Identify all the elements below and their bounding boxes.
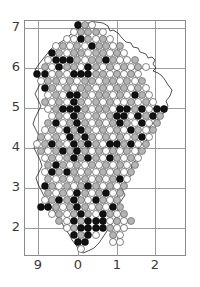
- dot-black: [75, 22, 82, 29]
- dot-gray: [82, 176, 89, 183]
- dot-open: [49, 99, 56, 106]
- dot-black: [82, 239, 89, 246]
- dot-open: [117, 78, 124, 85]
- dot-gray: [78, 218, 85, 225]
- dot-open: [146, 134, 153, 141]
- dot-open: [64, 99, 71, 106]
- dot-black: [74, 148, 81, 155]
- dot-gray: [53, 78, 60, 85]
- dot-open: [60, 78, 67, 85]
- dot-open: [60, 120, 67, 127]
- dot-gray: [78, 197, 85, 204]
- dot-open: [103, 176, 110, 183]
- x-tick-label: 9: [28, 258, 48, 272]
- dot-open: [82, 43, 89, 50]
- dot-open: [143, 127, 150, 134]
- dot-black: [85, 225, 92, 232]
- dot-gray: [38, 148, 45, 155]
- dot-gray: [110, 120, 117, 127]
- dot-black: [117, 176, 124, 183]
- dot-gray: [71, 225, 78, 232]
- dot-gray: [53, 134, 60, 141]
- dot-gray: [96, 57, 103, 64]
- figure-root: 9012 765432: [0, 0, 200, 287]
- dot-open: [103, 120, 110, 127]
- dot-open: [45, 57, 52, 64]
- dot-gray: [103, 106, 110, 113]
- dot-black: [103, 190, 110, 197]
- dot-gray: [110, 78, 117, 85]
- dot-open: [124, 57, 131, 64]
- dot-open: [107, 169, 114, 176]
- dot-gray: [107, 211, 114, 218]
- dot-open: [107, 85, 114, 92]
- dot-gray: [49, 127, 56, 134]
- dot-black: [67, 57, 74, 64]
- dot-black: [71, 232, 78, 239]
- dot-gray: [74, 57, 81, 64]
- dot-open: [135, 99, 142, 106]
- dot-gray: [110, 148, 117, 155]
- dot-black: [71, 99, 78, 106]
- dot-open: [110, 43, 117, 50]
- dot-gray: [74, 134, 81, 141]
- dot-black: [42, 71, 49, 78]
- dot-gray: [82, 92, 89, 99]
- dot-gray: [64, 197, 71, 204]
- dot-open: [45, 106, 52, 113]
- dot-open: [64, 218, 71, 225]
- dot-gray: [124, 78, 131, 85]
- dot-black: [71, 197, 78, 204]
- dot-gray: [114, 127, 121, 134]
- dot-gray: [93, 50, 100, 57]
- dot-gray: [78, 29, 85, 36]
- dot-open: [67, 43, 74, 50]
- dot-open: [132, 148, 139, 155]
- dot-gray: [53, 92, 60, 99]
- dot-open: [34, 141, 41, 148]
- dot-gray: [117, 43, 124, 50]
- dot-black: [93, 197, 100, 204]
- dot-open: [42, 197, 49, 204]
- dot-gray: [85, 36, 92, 43]
- y-tick-label: 4: [6, 140, 20, 154]
- dot-gray: [103, 78, 110, 85]
- dot-gray: [117, 92, 124, 99]
- dot-open: [85, 50, 92, 57]
- dot-gray: [107, 225, 114, 232]
- dot-open: [93, 169, 100, 176]
- dot-open: [89, 148, 96, 155]
- dot-gray: [96, 176, 103, 183]
- dot-black: [117, 106, 124, 113]
- dot-open: [124, 176, 131, 183]
- dot-open: [85, 99, 92, 106]
- dot-open: [135, 155, 142, 162]
- dot-gray: [100, 197, 107, 204]
- dot-gray: [117, 190, 124, 197]
- dot-black: [71, 218, 78, 225]
- dot-gray: [114, 155, 121, 162]
- dot-gray: [78, 232, 85, 239]
- y-tick-label: 6: [6, 60, 20, 74]
- dot-gray: [143, 141, 150, 148]
- dot-open: [124, 134, 131, 141]
- dot-gray: [96, 148, 103, 155]
- y-tick-label: 7: [6, 20, 20, 34]
- dot-gray: [78, 113, 85, 120]
- dot-gray: [56, 99, 63, 106]
- dot-open: [93, 232, 100, 239]
- dot-open: [121, 127, 128, 134]
- dot-gray: [103, 134, 110, 141]
- dot-open: [89, 92, 96, 99]
- dot-open: [38, 78, 45, 85]
- dot-black: [71, 155, 78, 162]
- dot-gray: [93, 64, 100, 71]
- dot-open: [146, 106, 153, 113]
- dot-gray: [114, 218, 121, 225]
- dot-open: [89, 120, 96, 127]
- dot-black: [74, 190, 81, 197]
- dot-open: [42, 127, 49, 134]
- dot-open: [56, 127, 63, 134]
- dot-open: [89, 204, 96, 211]
- dot-gray: [132, 162, 139, 169]
